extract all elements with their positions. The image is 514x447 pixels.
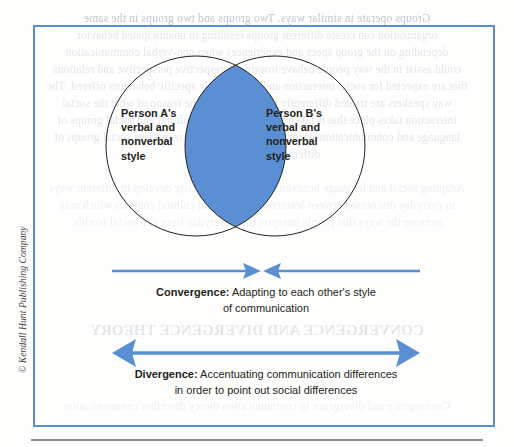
bleed-line: Groups operate in similar ways. Two grou… <box>0 12 514 24</box>
convergence-caption-line1: Convergence: Adapting to each other's st… <box>35 285 497 301</box>
divergence-caption-line2: in order to point out social differences <box>35 383 497 399</box>
page-bottom-rule <box>31 439 483 441</box>
divergence-caption: Divergence: Accentuating communication d… <box>35 367 497 398</box>
convergence-arrows <box>112 263 420 279</box>
divergence-arrow <box>112 339 420 367</box>
convergence-caption: Convergence: Adapting to each other's st… <box>35 285 497 316</box>
figure-frame: Person A's verbal and nonverbal style Pe… <box>33 25 495 427</box>
venn-diagram: Person A's verbal and nonverbal style Pe… <box>35 27 497 429</box>
divergence-description: Accentuating communication differences <box>198 368 398 380</box>
divergence-term: Divergence: <box>135 368 198 380</box>
figure-page: Groups operate in similar ways. Two grou… <box>0 0 514 447</box>
convergence-term: Convergence: <box>156 286 229 298</box>
person-a-label: Person A's verbal and nonverbal style <box>121 106 177 163</box>
copyright-credit: © Kendall Hunt Publishing Company <box>18 223 28 373</box>
convergence-description: Adapting to each other's style <box>229 286 375 298</box>
convergence-caption-line2: of communication <box>35 301 497 317</box>
divergence-caption-line1: Divergence: Accentuating communication d… <box>35 367 497 383</box>
person-b-label: Person B's verbal and nonverbal style <box>266 106 322 163</box>
